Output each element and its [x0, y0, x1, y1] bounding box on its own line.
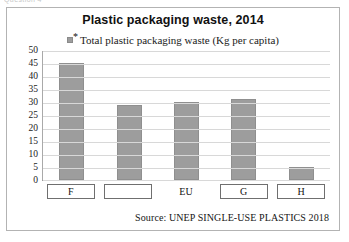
y-axis-tick-label: 50	[29, 46, 39, 56]
chart-legend: *Total plastic packaging waste (Kg per c…	[7, 31, 339, 46]
gridline	[43, 129, 330, 130]
gridline	[43, 103, 330, 104]
gridline	[43, 155, 330, 156]
y-axis-tick-label: 30	[29, 98, 39, 108]
x-label-answer-box[interactable]: F	[47, 184, 95, 199]
x-axis-labels: FEUGH	[42, 184, 330, 199]
x-label-slot: F	[42, 184, 100, 199]
x-label-slot	[100, 184, 158, 199]
y-axis-tick-label: 5	[33, 163, 38, 173]
gridline	[43, 142, 330, 143]
y-axis-tick-label: 35	[29, 85, 39, 95]
y-axis-tick-label: 20	[29, 124, 39, 134]
legend-asterisk: *	[73, 31, 78, 42]
x-label-slot: G	[215, 184, 273, 199]
bar	[59, 63, 84, 180]
gridline	[43, 77, 330, 78]
y-axis: 50454035302520151050	[18, 51, 40, 181]
gridline	[43, 180, 330, 181]
x-label-answer-box[interactable]: G	[220, 184, 268, 199]
y-axis-tick-label: 10	[29, 150, 39, 160]
screenshot-root: Question 4 Plastic packaging waste, 2014…	[0, 0, 349, 242]
y-axis-tick-label: 15	[29, 137, 39, 147]
clipped-header-text: Question 4	[4, 0, 42, 4]
x-label-static: EU	[162, 184, 210, 199]
y-axis-tick-label: 40	[29, 72, 39, 82]
chart-figure: Plastic packaging waste, 2014 *Total pla…	[6, 7, 340, 231]
plot-area	[42, 51, 330, 181]
y-axis-tick-label: 45	[29, 59, 39, 69]
x-label-answer-box[interactable]	[104, 184, 152, 199]
gridline	[43, 64, 330, 65]
x-label-slot: EU	[157, 184, 215, 199]
y-axis-tick-label: 25	[29, 111, 39, 121]
gridline	[43, 116, 330, 117]
gridline	[43, 51, 330, 52]
plot-region: 50454035302520151050 FEUGH	[18, 51, 330, 196]
legend-label: Total plastic packaging waste (Kg per ca…	[80, 34, 279, 46]
chart-title: Plastic packaging waste, 2014	[7, 13, 339, 27]
y-axis-tick-label: 0	[33, 176, 38, 186]
x-label-answer-box[interactable]: H	[277, 184, 325, 199]
gridline	[43, 168, 330, 169]
x-label-slot: H	[272, 184, 330, 199]
source-note: Source: UNEP SINGLE-USE PLASTICS 2018	[135, 212, 329, 223]
gridline	[43, 90, 330, 91]
